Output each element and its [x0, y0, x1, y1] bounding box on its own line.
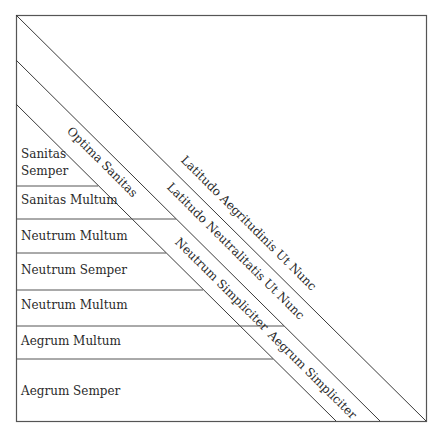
row-label-line: Semper [21, 163, 68, 180]
diagonal-line-1 [16, 15, 426, 421]
row-label-neutrum-multum: Neutrum Multum [21, 228, 128, 245]
row-label-neutrum-semper: Neutrum Semper [21, 262, 127, 279]
diagram-lines [0, 0, 438, 434]
row-label-line: Sanitas [21, 146, 68, 163]
row-label-aegrum-semper: Aegrum Semper [21, 383, 120, 400]
row-label-aegrum-multum: Aegrum Multum [21, 333, 121, 350]
row-label-sanitas-semper: Sanitas Semper [21, 146, 68, 180]
row-label-sanitas-multum: Sanitas Multum [21, 192, 118, 209]
row-label-neutrum-multum-2: Neutrum Multum [21, 297, 128, 314]
